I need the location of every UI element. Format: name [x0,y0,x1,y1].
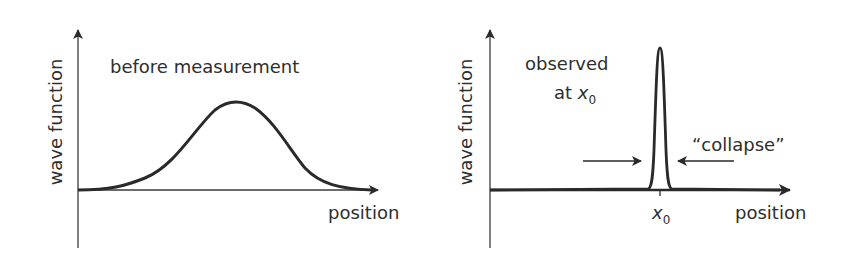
y-axis-label-right: wave function [455,59,476,186]
panel-observed: wave function observed at x0 x0 “collaps… [455,30,806,248]
x-axis-label-right: position [735,202,806,223]
x-axis-label-left: position [328,202,399,223]
collapse-annotation: “collapse” [692,134,784,155]
gaussian-curve [78,102,372,190]
x0-tick-label: x0 [651,202,670,227]
caption-before-measurement: before measurement [110,56,299,77]
diagram-canvas: wave function before measurement positio… [0,0,850,256]
panel-before-measurement: wave function before measurement positio… [45,30,399,248]
y-axis-label-left: wave function [45,59,66,186]
caption-observed: observed [525,53,608,74]
caption-at-x0: at x0 [554,82,596,107]
